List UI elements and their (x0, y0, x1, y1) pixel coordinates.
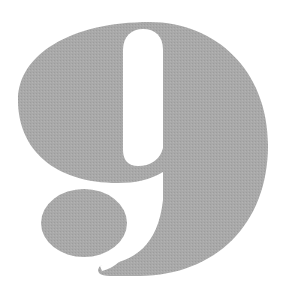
numeral-nine-icon (0, 0, 286, 292)
nine-shape (0, 0, 286, 292)
numeral-nine-figure: 9 (0, 0, 286, 292)
